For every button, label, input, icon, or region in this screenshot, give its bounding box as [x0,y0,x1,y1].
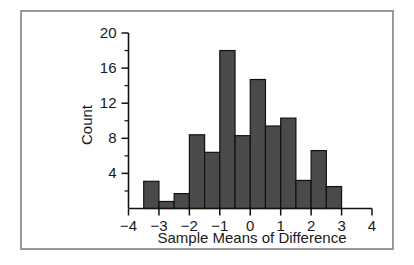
y-axis-tick-label: 4 [108,164,116,181]
y-axis-tick-label: 20 [100,24,117,41]
histogram-plot: 48121620 −4−3−2−101234 Count Sample Mean… [0,0,414,265]
x-ticks-group [129,209,373,216]
histogram-bar [265,126,280,208]
x-axis-title: Sample Means of Difference [158,229,347,246]
y-axis-tick-label: 12 [100,94,117,111]
bars-group [144,51,342,209]
histogram-svg: 48121620 −4−3−2−101234 Count Sample Mean… [0,0,414,265]
x-axis-tick-label: 4 [368,217,376,234]
x-axis-tick-label: −4 [120,217,137,234]
y-tick-labels: 48121620 [100,24,117,181]
y-axis-tick-label: 8 [108,129,116,146]
histogram-bar [189,135,204,209]
histogram-bar [281,118,296,208]
y-ticks-group [122,33,129,191]
histogram-bar [205,152,220,208]
histogram-bar [311,151,326,209]
histogram-bar [174,194,189,209]
histogram-bar [250,80,265,209]
histogram-bar [326,187,341,209]
histogram-bar [144,181,159,208]
histogram-bar [296,180,311,208]
histogram-bar [159,201,174,208]
histogram-bar [220,51,235,209]
y-axis-title: Count [78,104,95,145]
histogram-bar [235,136,250,209]
y-axis-tick-label: 16 [100,59,117,76]
